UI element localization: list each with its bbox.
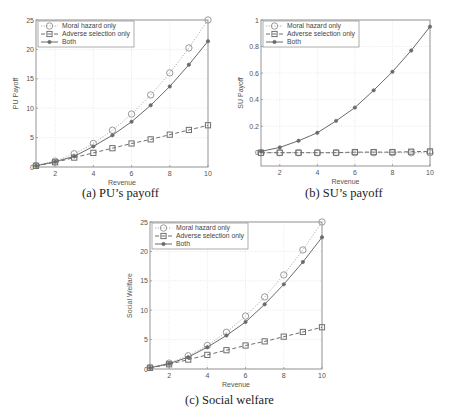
chart-pu-payoff: 2468100510152025RevenuePU PayoffMoral ha… [12, 17, 212, 187]
legend-label-adverse-selection: Adverse selection only [62, 30, 131, 38]
y-tick-label: 5 [30, 134, 34, 141]
dot-marker-icon [53, 160, 56, 163]
dot-marker-icon [259, 150, 262, 153]
circle-marker-icon [300, 247, 306, 253]
y-axis-title: SU Payoff [237, 77, 245, 108]
x-tick-label: 2 [167, 372, 171, 379]
x-tick-label: 4 [315, 169, 319, 176]
dot-marker-icon [297, 139, 300, 142]
y-tick-label: 0.4 [249, 96, 259, 103]
y-tick-label: 20 [140, 248, 148, 255]
dot-marker-icon [130, 120, 133, 123]
x-tick-label: 10 [204, 170, 212, 177]
dot-marker-icon [244, 320, 247, 323]
y-tick-label: 20 [26, 46, 34, 53]
legend-label-moral-hazard: Moral hazard only [176, 224, 231, 232]
dot-marker-icon [316, 131, 319, 134]
dot-marker-icon [168, 85, 171, 88]
chart-su-payoff: 24681000.20.40.60.81RevenueSU PayoffMora… [237, 17, 434, 186]
y-axis-title: Social Welfare [126, 273, 133, 318]
dot-marker-icon [162, 242, 165, 245]
legend-label-moral-hazard: Moral hazard only [287, 22, 342, 30]
series-both [34, 39, 209, 167]
dot-marker-icon [167, 362, 170, 365]
dot-marker-icon [428, 25, 431, 28]
dot-marker-icon [301, 260, 304, 263]
legend-label-both: Both [62, 38, 76, 45]
circle-marker-icon [186, 45, 192, 51]
x-tick-label: 2 [278, 169, 282, 176]
x-tick-label: 10 [426, 169, 434, 176]
caption-social-welfare: (c) Social welfare [185, 393, 274, 408]
series-both [148, 236, 323, 370]
series-adverse-selection-only [33, 123, 210, 169]
dot-marker-icon [206, 39, 209, 42]
dot-marker-icon [282, 283, 285, 286]
caption-su-payoff: (b) SU’s payoff [305, 186, 383, 201]
legend-label-both: Both [287, 38, 301, 45]
y-tick-label: 25 [26, 17, 34, 24]
circle-marker-icon [261, 294, 267, 300]
chart-social-welfare: 2468100510152025RevenueSocial WelfareMor… [126, 219, 326, 389]
y-tick-label: 0.6 [249, 70, 259, 77]
figure-canvas: 2468100510152025RevenuePU PayoffMoral ha… [0, 0, 451, 419]
legend-label-both: Both [176, 240, 190, 247]
y-tick-label: 10 [26, 105, 34, 112]
x-tick-label: 6 [244, 372, 248, 379]
x-axis-title: Revenue [222, 381, 250, 388]
x-tick-label: 8 [390, 169, 394, 176]
dot-marker-icon [410, 49, 413, 52]
dot-marker-icon [320, 236, 323, 239]
dot-marker-icon [148, 366, 151, 369]
dot-marker-icon [372, 89, 375, 92]
x-tick-label: 2 [53, 170, 57, 177]
x-tick-label: 4 [205, 372, 209, 379]
y-tick-label: 25 [140, 219, 148, 226]
legend: Moral hazard onlyAdverse selection onlyB… [38, 21, 134, 47]
legend-label-adverse-selection: Adverse selection only [176, 232, 245, 240]
dot-marker-icon [187, 356, 190, 359]
dot-marker-icon [92, 145, 95, 148]
legend: Moral hazard onlyAdverse selection onlyB… [263, 21, 359, 47]
x-tick-label: 8 [168, 170, 172, 177]
series-adverse-selection-only [258, 149, 432, 156]
dot-marker-icon [48, 40, 51, 43]
y-tick-label: 15 [26, 75, 34, 82]
y-tick-label: 0.8 [249, 43, 259, 50]
x-tick-label: 10 [318, 372, 326, 379]
x-axis-title: Revenue [108, 179, 136, 186]
dot-marker-icon [391, 70, 394, 73]
x-tick-label: 4 [91, 170, 95, 177]
dot-marker-icon [353, 106, 356, 109]
y-tick-label: 15 [140, 277, 148, 284]
dot-marker-icon [278, 146, 281, 149]
dot-marker-icon [187, 63, 190, 66]
dot-marker-icon [263, 303, 266, 306]
dot-marker-icon [111, 134, 114, 137]
series-adverse-selection-only [147, 325, 324, 371]
x-axis-title: Revenue [331, 178, 359, 185]
dot-marker-icon [206, 346, 209, 349]
dot-marker-icon [273, 40, 276, 43]
series-line [36, 41, 208, 166]
dot-marker-icon [149, 104, 152, 107]
y-tick-label: 1 [255, 17, 259, 24]
legend-label-moral-hazard: Moral hazard only [62, 22, 117, 30]
legend: Moral hazard onlyAdverse selection onlyB… [152, 223, 248, 249]
dot-marker-icon [225, 334, 228, 337]
legend-label-adverse-selection: Adverse selection only [287, 30, 356, 38]
x-tick-label: 8 [282, 372, 286, 379]
x-tick-label: 6 [353, 169, 357, 176]
caption-pu-payoff: (a) PU’s payoff [82, 186, 159, 201]
dot-marker-icon [34, 164, 37, 167]
y-axis-title: PU Payoff [12, 78, 20, 109]
x-tick-label: 6 [130, 170, 134, 177]
y-tick-label: 5 [144, 336, 148, 343]
y-tick-label: 10 [140, 307, 148, 314]
y-tick-label: 0.2 [249, 123, 259, 130]
dot-marker-icon [334, 119, 337, 122]
dot-marker-icon [73, 155, 76, 158]
circle-marker-icon [147, 92, 153, 98]
